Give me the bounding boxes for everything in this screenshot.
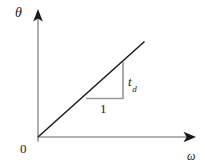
diagram-svg	[0, 0, 205, 166]
x-axis-label-omega: ω	[187, 150, 195, 162]
origin-label: 0	[20, 142, 27, 155]
slope-run-label: 1	[100, 102, 107, 115]
slope-rise-subscript: d	[132, 84, 137, 94]
figure-canvas: θ ω 0 1 td	[0, 0, 205, 166]
slope-rise-label: td	[128, 75, 136, 92]
y-axis-label-theta: θ	[15, 6, 22, 20]
